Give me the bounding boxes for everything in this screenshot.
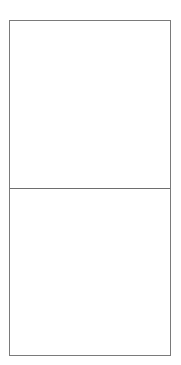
- bottom-panel: [10, 189, 170, 355]
- top-panel: [10, 21, 170, 189]
- outer-frame: [9, 20, 171, 356]
